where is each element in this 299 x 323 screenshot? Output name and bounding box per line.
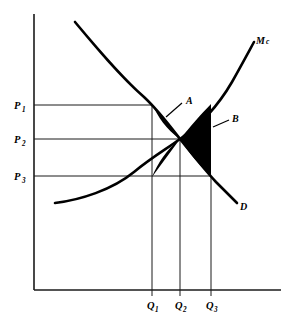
price-label-p3-sub: 3 xyxy=(21,177,26,185)
price-label-p2-sub: 2 xyxy=(21,140,26,148)
demand-label: D xyxy=(239,201,247,212)
quantity-label-q1-sub: 1 xyxy=(155,306,159,314)
price-label-p3: P xyxy=(14,171,21,182)
price-label-p2: P xyxy=(14,134,21,145)
quantity-label-q2: Q xyxy=(175,300,183,311)
marginal-cost-label: M xyxy=(255,35,266,46)
quantity-label-q1: Q xyxy=(147,300,155,311)
price-label-p1: P xyxy=(14,100,21,111)
marginal-cost-label-small: c xyxy=(266,37,270,46)
leader-line-a xyxy=(166,103,182,117)
economics-diagram: A B M c D P 1 P 2 P 3 Q 1 Q 2 Q 3 xyxy=(0,0,299,323)
quantity-label-q3: Q xyxy=(206,300,214,311)
price-label-p1-sub: 1 xyxy=(22,106,26,114)
quantity-label-q3-sub: 3 xyxy=(213,306,218,314)
area-label-b: B xyxy=(231,113,239,124)
diagram-canvas: A B M c D P 1 P 2 P 3 Q 1 Q 2 Q 3 xyxy=(0,0,299,323)
quantity-label-q2-sub: 2 xyxy=(182,306,187,314)
area-label-a: A xyxy=(185,95,193,106)
leader-line-b xyxy=(213,120,229,127)
